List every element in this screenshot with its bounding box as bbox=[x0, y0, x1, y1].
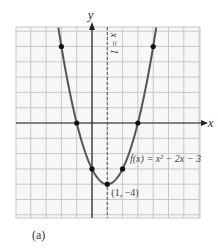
data-point bbox=[105, 182, 110, 187]
function-label: f(x) = x² − 2x − 3 bbox=[130, 153, 201, 165]
data-point bbox=[59, 44, 64, 49]
data-point bbox=[89, 166, 94, 171]
data-point bbox=[120, 166, 125, 171]
parabola-chart: y x x = 1 f(x) = x² − 2x − 3 (1, −4) bbox=[0, 0, 218, 252]
x-axis-label: x bbox=[207, 116, 214, 130]
vertex-label: (1, −4) bbox=[111, 187, 138, 199]
data-point bbox=[135, 120, 140, 125]
y-axis-label: y bbox=[87, 8, 94, 22]
data-point bbox=[151, 44, 156, 49]
figure-caption: (a) bbox=[32, 228, 45, 243]
data-point bbox=[74, 120, 79, 125]
axis-of-symmetry-label: x = 1 bbox=[109, 32, 120, 54]
